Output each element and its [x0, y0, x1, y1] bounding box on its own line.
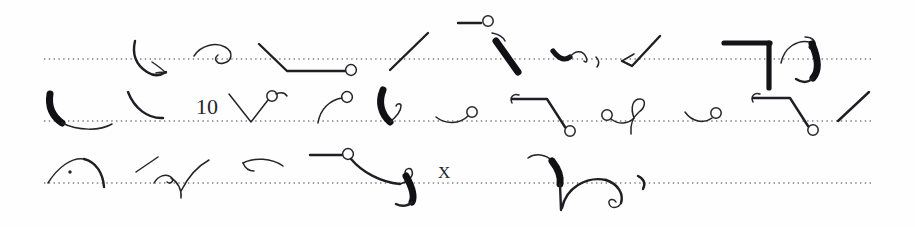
numeral-10: 10 — [196, 94, 218, 119]
shorthand-scan-canvas: 10 — [0, 0, 915, 227]
letter-x: X — [438, 163, 450, 182]
page-background — [0, 0, 915, 227]
shorthand-page: 10 — [0, 0, 915, 227]
